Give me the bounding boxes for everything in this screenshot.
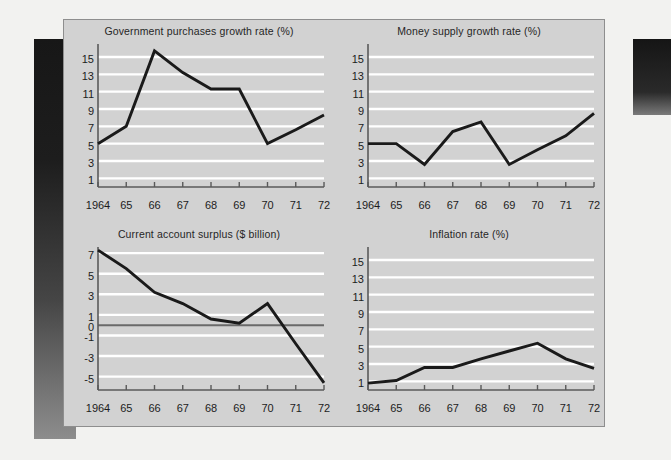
chart-inflation-rate: Inflation rate (%) 13579111315 196465666… (334, 223, 604, 426)
x-tick-label: 68 (475, 402, 487, 414)
y-tick-label: 1 (88, 174, 94, 186)
x-tick-label: 69 (233, 199, 245, 211)
plot-background (98, 44, 324, 187)
x-axis-labels-money-supply: 19646566676869707172 (368, 199, 600, 215)
x-tick-label: 70 (261, 199, 273, 211)
x-tick-label: 71 (290, 199, 302, 211)
plot-svg-government-purchases (98, 42, 330, 217)
y-tick-label: 3 (88, 290, 94, 302)
x-tick-label: 69 (233, 402, 245, 414)
plot-background (368, 247, 594, 390)
y-tick-label: 1 (358, 377, 364, 389)
plot-area-inflation-rate (368, 245, 600, 420)
plot-background (368, 44, 594, 187)
y-tick-label: 1 (88, 311, 94, 323)
y-tick-label: 3 (358, 157, 364, 169)
y-tick-label: 5 (88, 270, 94, 282)
y-tick-label: -3 (84, 352, 94, 364)
x-tick-label: 72 (588, 402, 600, 414)
plot-area-current-account-surplus (98, 245, 330, 420)
x-tick-label: 66 (148, 199, 160, 211)
y-tick-label: 11 (353, 291, 364, 303)
x-tick-label: 69 (503, 402, 515, 414)
chart-body-current-account-surplus: -5-3-101357 19646566676869707172 (64, 245, 330, 420)
chart-title-current-account-surplus: Current account surplus ($ billion) (64, 228, 334, 240)
chart-current-account-surplus: Current account surplus ($ billion) -5-3… (64, 223, 334, 426)
x-tick-label: 71 (290, 402, 302, 414)
y-tick-label: 7 (88, 122, 94, 134)
x-tick-label: 71 (560, 199, 572, 211)
x-tick-label: 65 (390, 402, 402, 414)
x-tick-label: 72 (318, 402, 330, 414)
x-tick-label: 67 (447, 199, 459, 211)
x-tick-label: 70 (531, 199, 543, 211)
y-tick-label: 9 (358, 105, 364, 117)
chart-body-inflation-rate: 13579111315 19646566676869707172 (334, 245, 600, 420)
y-tick-label: 15 (352, 53, 364, 65)
chart-title-money-supply: Money supply growth rate (%) (334, 25, 604, 37)
chart-money-supply: Money supply growth rate (%) 13579111315… (334, 20, 604, 223)
plot-area-money-supply (368, 42, 600, 217)
y-tick-label: 11 (353, 88, 364, 100)
y-tick-label: 7 (358, 325, 364, 337)
y-tick-label: 3 (358, 360, 364, 372)
y-tick-label: 5 (358, 140, 364, 152)
x-tick-label: 72 (318, 199, 330, 211)
y-axis-labels-government-purchases: 13579111315 (64, 42, 98, 187)
x-tick-label: 67 (447, 402, 459, 414)
y-tick-label: -1 (84, 331, 94, 343)
x-tick-label: 66 (418, 402, 430, 414)
y-tick-label: 11 (83, 88, 94, 100)
x-tick-label: 1964 (356, 402, 380, 414)
x-tick-label: 1964 (86, 199, 110, 211)
x-tick-label: 67 (177, 402, 189, 414)
x-tick-label: 72 (588, 199, 600, 211)
x-tick-label: 66 (418, 199, 430, 211)
y-axis-labels-money-supply: 13579111315 (334, 42, 368, 187)
x-tick-label: 68 (205, 402, 217, 414)
x-tick-label: 66 (148, 402, 160, 414)
y-tick-label: -5 (84, 373, 94, 385)
x-tick-label: 71 (560, 402, 572, 414)
y-axis-labels-inflation-rate: 13579111315 (334, 245, 368, 390)
x-tick-label: 1964 (356, 199, 380, 211)
x-tick-label: 68 (475, 199, 487, 211)
x-tick-label: 65 (120, 199, 132, 211)
plot-svg-current-account-surplus (98, 245, 330, 420)
y-tick-label: 0 (88, 321, 94, 333)
chart-body-government-purchases: 13579111315 19646566676869707172 (64, 42, 330, 217)
x-tick-label: 65 (390, 199, 402, 211)
y-tick-label: 1 (358, 174, 364, 186)
y-tick-label: 15 (82, 53, 94, 65)
plot-area-government-purchases (98, 42, 330, 217)
figure-page: Government purchases growth rate (%) 135… (0, 0, 671, 460)
x-tick-label: 65 (120, 402, 132, 414)
x-axis-labels-current-account-surplus: 19646566676869707172 (98, 402, 330, 418)
x-tick-label: 1964 (86, 402, 110, 414)
y-tick-label: 9 (358, 308, 364, 320)
chart-grid: Government purchases growth rate (%) 135… (64, 20, 604, 426)
plot-svg-money-supply (368, 42, 600, 217)
y-tick-label: 9 (88, 105, 94, 117)
x-tick-label: 67 (177, 199, 189, 211)
y-tick-label: 5 (88, 140, 94, 152)
y-tick-label: 13 (352, 273, 364, 285)
y-tick-label: 3 (88, 157, 94, 169)
chart-body-money-supply: 13579111315 19646566676869707172 (334, 42, 600, 217)
chart-title-government-purchases: Government purchases growth rate (%) (64, 25, 334, 37)
figure-panel: Government purchases growth rate (%) 135… (63, 19, 605, 427)
x-tick-label: 70 (531, 402, 543, 414)
x-axis-labels-government-purchases: 19646566676869707172 (98, 199, 330, 215)
x-axis-labels-inflation-rate: 19646566676869707172 (368, 402, 600, 418)
chart-title-inflation-rate: Inflation rate (%) (334, 228, 604, 240)
y-axis-labels-current-account-surplus: -5-3-101357 (64, 245, 98, 390)
plot-svg-inflation-rate (368, 245, 600, 420)
y-tick-label: 7 (88, 249, 94, 261)
x-tick-label: 68 (205, 199, 217, 211)
y-tick-label: 5 (358, 343, 364, 355)
chart-government-purchases: Government purchases growth rate (%) 135… (64, 20, 334, 223)
y-tick-label: 13 (352, 70, 364, 82)
y-tick-label: 13 (82, 70, 94, 82)
x-tick-label: 70 (261, 402, 273, 414)
x-tick-label: 69 (503, 199, 515, 211)
